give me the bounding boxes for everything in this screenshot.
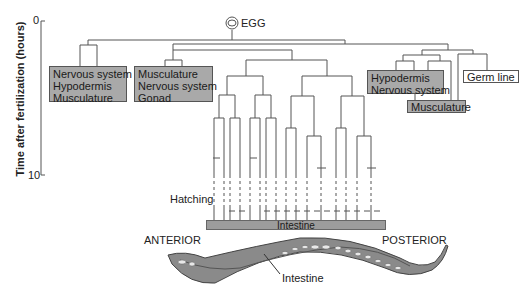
box-line: Hypodermis [53,80,123,92]
box-line: Nervous system [138,80,209,92]
box-line: Musculature [411,102,462,112]
box-line: Hypodermis [371,72,440,84]
lineage-tree-lines [0,0,525,295]
hatching-label: Hatching [170,193,213,205]
posterior-label: POSTERIOR [382,234,447,246]
intestine-bar: Intestine [206,220,386,230]
egg-label: EGG [241,17,265,29]
box-line: Gonad [138,92,209,104]
box-line: Germ line [467,72,515,82]
worm-intestine-label: Intestine [282,272,324,284]
box-ab-left: Nervous system Hypodermis Musculature [49,66,127,102]
box-germ-line: Germ line [463,70,519,83]
cell-lineage-diagram: 0 10 Time after fertilization (hours) EG… [0,0,525,295]
axis-tick-0: 0 [33,14,39,26]
box-line: Musculature [53,92,123,104]
axis-tick-10: 10 [28,169,40,181]
box-c-lineage: Hypodermis Nervous system [367,70,444,94]
box-line: Musculature [138,68,209,80]
box-line: Nervous system [53,68,123,80]
axis-title: Time after fertilization (hours) [14,9,26,189]
box-musculature: Musculature [407,100,466,113]
anterior-label: ANTERIOR [144,234,201,246]
box-line: Nervous system [371,84,440,96]
box-ms-lineage: Musculature Nervous system Gonad [134,66,213,102]
egg-icon [226,17,238,29]
